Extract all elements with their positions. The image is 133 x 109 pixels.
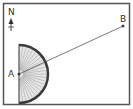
compass-bearing-diagram: N A B [0,0,133,109]
point-b-label: B [120,15,126,24]
north-label: N [8,8,15,17]
diagram-canvas [0,0,133,109]
point-b-marker [122,25,125,28]
point-a-label: A [8,70,14,79]
